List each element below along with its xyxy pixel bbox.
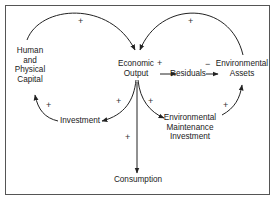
sign-output-residuals: + <box>157 59 162 68</box>
node-economic-output: Economic Output <box>112 59 160 78</box>
node-environmental-assets: Environmental Assets <box>214 59 270 78</box>
node-residuals: Residuals <box>168 69 208 79</box>
sign-top-left: + <box>78 17 83 26</box>
sign-investment-capital: + <box>46 101 51 110</box>
sign-maintenance-assets: + <box>223 101 228 110</box>
node-investment: Investment <box>56 116 104 126</box>
sign-output-investment: + <box>116 97 121 106</box>
node-human-capital: Human and Physical Capital <box>12 46 48 84</box>
sign-top-right: + <box>188 17 193 26</box>
causal-loop-diagram: Human and Physical Capital Economic Outp… <box>0 0 276 201</box>
sign-output-consumption: + <box>125 133 130 142</box>
sign-residuals-assets: − <box>205 60 210 69</box>
sign-output-maintenance: + <box>148 97 153 106</box>
node-env-maintenance-investment: Environmental Maintenance Investment <box>160 113 220 142</box>
node-consumption: Consumption <box>110 175 166 185</box>
diagram-arrows <box>0 0 276 201</box>
